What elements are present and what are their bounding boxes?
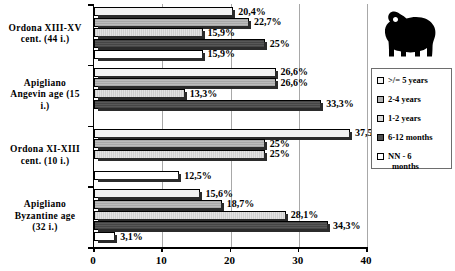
bar-value-label: 33,3% <box>326 99 354 109</box>
bar-value-label: 25% <box>270 39 290 49</box>
bar-value-label: 25% <box>270 139 290 149</box>
bar <box>94 211 286 220</box>
bar <box>94 221 328 230</box>
legend-swatch <box>377 153 384 160</box>
chart-legend: >/= 5 years2-4 years1-2 years6-12 months… <box>371 68 452 169</box>
x-axis-tick <box>298 247 300 252</box>
bar-value-label: 20,4% <box>238 7 266 17</box>
bar-shadow <box>327 224 330 232</box>
bar-value-label: 26,6% <box>281 67 309 77</box>
x-axis-tick <box>366 247 368 252</box>
legend-swatch <box>377 96 384 103</box>
bar <box>94 68 276 77</box>
bar <box>94 89 185 98</box>
legend-label: 2-4 years <box>388 95 421 105</box>
bar-shadow <box>349 132 352 140</box>
bar <box>94 50 203 59</box>
sheep-silhouette-icon <box>378 4 444 58</box>
bar-shadow <box>320 103 323 111</box>
bar-value-label: 15,9% <box>208 49 236 59</box>
plot-area: 20,4%22,7%15,9%25%15,9%26,6%26,6%13,3%33… <box>93 4 367 247</box>
x-axis-tick <box>161 247 163 252</box>
legend-swatch <box>377 77 384 84</box>
bar-shadow <box>114 235 117 243</box>
bar <box>94 171 179 180</box>
legend-swatch <box>377 115 384 122</box>
bar-group: 15,6%18,7%28,1%34,3%3,1% <box>94 186 367 247</box>
category-label: Ordona XIII-XVcent. (44 i.) <box>0 23 90 46</box>
legend-label: >/= 5 years <box>388 76 428 86</box>
legend-swatch <box>377 134 384 141</box>
bar-shadow-bottom <box>98 179 178 182</box>
bar-shadow <box>264 153 267 161</box>
bar-shadow <box>275 81 278 89</box>
bar <box>94 100 321 109</box>
x-axis-tick-label: 40 <box>361 254 372 266</box>
legend-item[interactable]: 6-12 months <box>377 133 448 143</box>
legend-item[interactable]: 2-4 years <box>377 95 448 105</box>
bar <box>94 139 265 148</box>
bar-value-label: 15,6% <box>205 189 233 199</box>
bar-chart: Ordona XIII-XVcent. (44 i.) ApiglianoAng… <box>0 0 455 271</box>
bar-shadow-bottom <box>98 108 320 111</box>
y-axis-tick <box>88 65 93 67</box>
bar <box>94 189 200 198</box>
bar-group: 20,4%22,7%15,9%25%15,9% <box>94 4 367 65</box>
legend-item[interactable]: >/= 5 years <box>377 76 448 86</box>
bar-shadow-bottom <box>98 240 114 243</box>
bar-value-label: 18,7% <box>227 199 255 209</box>
category-label: ApiglianoAngevin age (15i.) <box>0 78 90 113</box>
x-axis-tick <box>230 247 232 252</box>
bar-value-label: 3,1% <box>120 232 143 242</box>
bar-value-label: 34,3% <box>333 221 361 231</box>
category-label: Ordona XI-XIIIcent. (10 i.) <box>0 144 90 167</box>
bar-value-label: 13,3% <box>190 89 218 99</box>
x-axis-tick-label: 20 <box>224 254 235 266</box>
bar <box>94 18 249 27</box>
bar <box>94 200 222 209</box>
x-axis-tick <box>93 247 95 252</box>
bar <box>94 232 115 241</box>
legend-label: 1-2 years <box>388 114 421 124</box>
bar <box>94 78 276 87</box>
bar-group: 26,6%26,6%13,3%33,3% <box>94 65 367 126</box>
bar-shadow <box>248 21 251 29</box>
legend-label: NN - 6months <box>388 152 419 171</box>
legend-item[interactable]: NN - 6months <box>377 152 448 171</box>
bar-value-label: 22,7% <box>254 17 282 27</box>
y-axis-tick <box>88 186 93 188</box>
bar-value-label: 12,5% <box>184 171 212 181</box>
x-axis-tick-label: 30 <box>292 254 303 266</box>
bar <box>94 7 233 16</box>
bar <box>94 28 203 37</box>
bar <box>94 129 350 138</box>
bar-shadow-bottom <box>98 58 202 61</box>
bar <box>94 150 265 159</box>
y-axis-tick <box>88 126 93 128</box>
bar-shadow-bottom <box>98 158 264 161</box>
bar-shadow <box>178 174 181 182</box>
bar-group: 37,5%25%25%12,5% <box>94 126 367 187</box>
category-label: ApiglianoByzantine age(32 i.) <box>0 199 90 234</box>
y-axis-tick <box>88 247 93 249</box>
bar-value-label: 26,6% <box>281 78 309 88</box>
gridline <box>367 4 368 247</box>
legend-label: 6-12 months <box>388 133 433 143</box>
bar-shadow <box>202 53 205 61</box>
bar <box>94 39 265 48</box>
x-axis-tick-label: 0 <box>90 254 96 266</box>
bar-value-label: 28,1% <box>291 210 319 220</box>
x-axis-tick-label: 10 <box>156 254 167 266</box>
bar-value-label: 15,9% <box>208 28 236 38</box>
legend-item[interactable]: 1-2 years <box>377 114 448 124</box>
y-axis-tick <box>88 4 93 6</box>
bar-value-label: 25% <box>270 149 290 159</box>
bar-shadow <box>264 42 267 50</box>
